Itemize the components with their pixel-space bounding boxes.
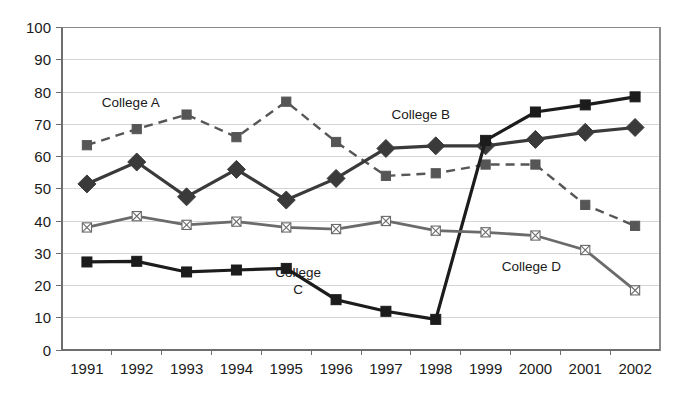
data-point-marker bbox=[232, 133, 241, 142]
data-point-marker bbox=[331, 224, 340, 233]
x-axis-tick-label: 1999 bbox=[469, 360, 502, 377]
data-point-marker bbox=[531, 231, 540, 240]
series-label-line: College bbox=[275, 265, 321, 280]
data-point-marker bbox=[231, 265, 241, 275]
data-point-marker bbox=[277, 191, 295, 209]
data-point-marker bbox=[626, 118, 644, 136]
data-point-marker bbox=[182, 110, 191, 119]
data-point-marker bbox=[282, 97, 291, 106]
x-axis-tick-label: 1995 bbox=[270, 360, 303, 377]
x-axis-tick-label: 1994 bbox=[220, 360, 253, 377]
series-label-college-c: CollegeC bbox=[275, 265, 321, 297]
data-point-marker bbox=[481, 228, 490, 237]
data-point-marker bbox=[381, 306, 391, 316]
data-point-marker bbox=[82, 141, 91, 150]
data-point-marker bbox=[481, 160, 490, 169]
y-axis-tick-label: 10 bbox=[34, 309, 51, 326]
y-axis-tick-label: 20 bbox=[34, 277, 51, 294]
data-point-marker bbox=[630, 92, 640, 102]
data-point-marker bbox=[630, 286, 639, 295]
chart-canvas: 0102030405060708090100199119921993199419… bbox=[0, 0, 691, 400]
x-axis-tick-label: 1991 bbox=[70, 360, 103, 377]
data-point-marker bbox=[581, 245, 590, 254]
data-point-marker bbox=[182, 267, 192, 277]
x-axis-tick-label: 1992 bbox=[120, 360, 153, 377]
data-point-marker bbox=[327, 169, 345, 187]
line-chart: 0102030405060708090100199119921993199419… bbox=[0, 0, 691, 400]
data-point-marker bbox=[82, 257, 92, 267]
y-axis-tick-label: 100 bbox=[26, 19, 51, 36]
series-college-c bbox=[82, 92, 640, 325]
data-point-marker bbox=[282, 223, 291, 232]
series-label-line: College B bbox=[392, 107, 451, 122]
data-point-marker bbox=[132, 212, 141, 221]
y-axis-tick-label: 0 bbox=[43, 342, 51, 359]
y-axis-tick-label: 80 bbox=[34, 84, 51, 101]
data-point-marker bbox=[381, 171, 390, 180]
data-point-marker bbox=[576, 123, 594, 141]
y-axis-tick-label: 30 bbox=[34, 245, 51, 262]
x-axis-tick-label: 1997 bbox=[369, 360, 402, 377]
series-label-college-d: College D bbox=[502, 259, 562, 274]
data-point-marker bbox=[132, 124, 141, 133]
data-point-marker bbox=[431, 169, 440, 178]
data-point-marker bbox=[526, 130, 544, 148]
data-point-marker bbox=[82, 223, 91, 232]
data-point-marker bbox=[481, 135, 491, 145]
data-point-marker bbox=[581, 200, 590, 209]
data-point-marker bbox=[530, 107, 540, 117]
y-axis-tick-label: 40 bbox=[34, 213, 51, 230]
gridlines-group bbox=[62, 28, 660, 351]
data-point-marker bbox=[431, 226, 440, 235]
series-college-b bbox=[78, 118, 644, 209]
axis-group: 0102030405060708090100199119921993199419… bbox=[26, 19, 660, 377]
y-axis-tick-label: 70 bbox=[34, 116, 51, 133]
data-point-marker bbox=[331, 137, 340, 146]
series-label-college-a: College A bbox=[102, 95, 160, 110]
data-point-marker bbox=[427, 137, 445, 155]
y-axis-tick-label: 60 bbox=[34, 148, 51, 165]
data-point-marker bbox=[630, 221, 639, 230]
data-point-marker bbox=[227, 160, 245, 178]
y-axis-tick-label: 50 bbox=[34, 180, 51, 197]
series-label-line: College D bbox=[502, 259, 562, 274]
data-point-marker bbox=[431, 314, 441, 324]
data-point-marker bbox=[182, 220, 191, 229]
data-point-marker bbox=[580, 100, 590, 110]
x-axis-tick-label: 2002 bbox=[618, 360, 651, 377]
data-point-marker bbox=[331, 295, 341, 305]
series-label-line: College A bbox=[102, 95, 160, 110]
x-axis-tick-label: 2001 bbox=[569, 360, 602, 377]
data-point-marker bbox=[531, 160, 540, 169]
x-axis-tick-label: 2000 bbox=[519, 360, 552, 377]
series-group bbox=[78, 92, 644, 325]
series-label-college-b: College B bbox=[392, 107, 451, 122]
y-axis-tick-label: 90 bbox=[34, 51, 51, 68]
data-point-marker bbox=[132, 256, 142, 266]
data-point-marker bbox=[78, 175, 96, 193]
x-axis-tick-label: 1998 bbox=[419, 360, 452, 377]
x-axis-tick-label: 1993 bbox=[170, 360, 203, 377]
data-point-marker bbox=[232, 217, 241, 226]
data-point-marker bbox=[377, 139, 395, 157]
data-point-marker bbox=[381, 216, 390, 225]
series-label-line: C bbox=[293, 282, 303, 297]
x-axis-tick-label: 1996 bbox=[319, 360, 352, 377]
